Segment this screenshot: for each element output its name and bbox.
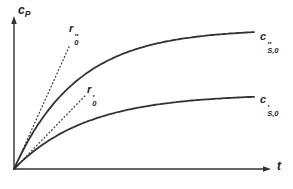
kinetics-figure: cP t r″0 r′0 c″S,0 c′S,0: [0, 0, 293, 189]
tangent-r0-prime: [14, 95, 86, 169]
y-axis-label-subscript: P: [25, 9, 31, 19]
plot-canvas: [0, 0, 293, 189]
lower-rate-base: r: [87, 83, 91, 95]
y-axis-label-base: c: [18, 3, 25, 17]
x-axis-arrowhead: [263, 166, 271, 172]
upper-rate-scripts: ″0: [74, 34, 78, 47]
lower-rate-scripts: ′0: [92, 95, 96, 108]
upper-asymptote-label: c″S,0: [260, 27, 278, 55]
lower-asymptote-label: c′S,0: [260, 90, 278, 118]
x-axis-label: t: [277, 160, 281, 172]
y-axis-arrowhead: [11, 16, 17, 24]
upper-asymptote-scripts: ″S,0: [267, 42, 278, 55]
upper-asymptote-base: c: [260, 30, 266, 42]
upper-rate-base: r: [69, 22, 73, 34]
lower-asymptote-scripts: ′S,0: [267, 105, 278, 118]
upper-rate-label: r″0: [69, 19, 78, 47]
lower-asymptote-base: c: [260, 93, 266, 105]
lower-rate-subscript: 0: [92, 100, 96, 108]
curve-cs0-double-prime: [14, 32, 254, 169]
upper-rate-subscript: 0: [74, 39, 78, 47]
lower-asymptote-subscript: S,0: [267, 110, 278, 118]
lower-rate-label: r′0: [87, 80, 96, 108]
y-axis-label: cP: [18, 1, 30, 18]
upper-asymptote-subscript: S,0: [267, 47, 278, 55]
